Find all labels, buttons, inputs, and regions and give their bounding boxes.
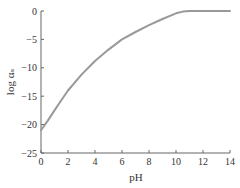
x-axis-label: pH (129, 171, 143, 183)
x-tick-label: 12 (198, 156, 208, 167)
series-line (41, 11, 230, 130)
y-tick-label: −15 (21, 91, 37, 102)
x-tick-label: 8 (147, 156, 152, 167)
y-tick-label: −10 (21, 62, 37, 73)
y-tick-label: −25 (21, 148, 37, 159)
axes: 024681012140−5−10−15−20−25 (21, 6, 235, 168)
y-tick-label: −5 (26, 34, 37, 45)
y-tick-label: −20 (21, 119, 37, 130)
line-chart: 024681012140−5−10−15−20−25 log αₛ pH (0, 0, 240, 188)
y-axis-label: log αₛ (4, 69, 16, 96)
x-tick-label: 14 (225, 156, 235, 167)
series-layer (41, 11, 230, 130)
y-tick-label: 0 (32, 6, 37, 17)
x-tick-label: 6 (120, 156, 125, 167)
x-tick-label: 10 (171, 156, 181, 167)
x-tick-label: 4 (93, 156, 98, 167)
x-tick-label: 2 (66, 156, 71, 167)
x-tick-label: 0 (39, 156, 44, 167)
